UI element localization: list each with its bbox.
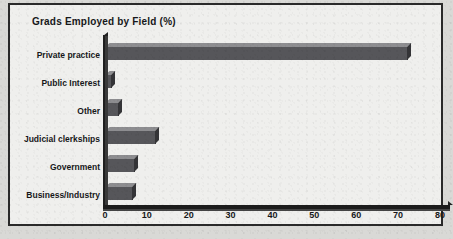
value-axis-tick-labels: 0 10 20 30 40 50 60 70 80 [20, 210, 451, 226]
chart-screenshot: Grads Employed by Field (%) Private prac… [0, 0, 453, 239]
x-tick-30: 30 [226, 210, 236, 220]
x-tick-80: 80 [435, 210, 445, 220]
x-tick-50: 50 [309, 210, 319, 220]
bar-business-industry [105, 183, 132, 196]
x-tick-40: 40 [267, 210, 277, 220]
x-tick-20: 20 [184, 210, 194, 220]
chart-frame: Grads Employed by Field (%) Private prac… [8, 3, 443, 226]
y-axis-line [103, 35, 108, 206]
bar-series [20, 10, 451, 229]
x-axis-arrow-icon [448, 201, 453, 205]
x-tick-10: 10 [142, 210, 152, 220]
bar-private-practice [105, 43, 407, 56]
plot-area: Grads Employed by Field (%) Private prac… [20, 10, 451, 229]
x-tick-60: 60 [351, 210, 361, 220]
y-axis-arrow-icon [103, 32, 108, 36]
x-tick-0: 0 [102, 210, 107, 220]
x-tick-70: 70 [393, 210, 403, 220]
bar-government [105, 155, 134, 168]
bar-judicial-clerkships [105, 127, 155, 140]
